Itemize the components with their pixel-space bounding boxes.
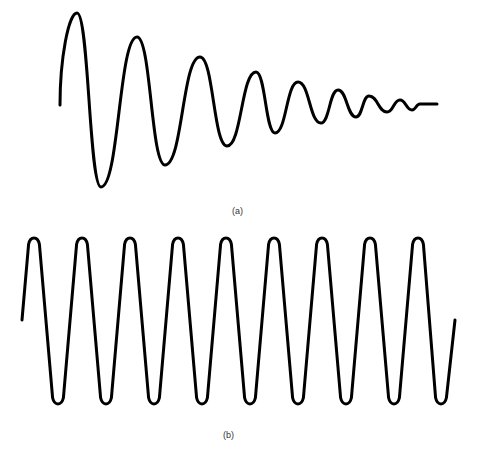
undamped-oscillation-curve (22, 238, 455, 404)
panel-a-caption: (a) (232, 206, 243, 216)
panel-b-caption: (b) (223, 430, 234, 440)
waveform-diagram (0, 0, 482, 451)
damped-oscillation-curve (60, 13, 437, 187)
